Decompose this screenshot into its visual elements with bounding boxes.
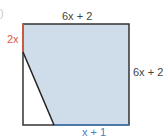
shaded-region [23, 24, 129, 125]
right-side-label: 6x + 2 [133, 66, 163, 78]
left-segment-label: 2x [7, 33, 19, 45]
top-side-label: 6x + 2 [62, 10, 92, 22]
bottom-segment-label: x + 1 [82, 126, 106, 136]
